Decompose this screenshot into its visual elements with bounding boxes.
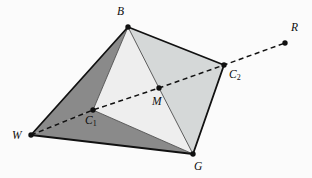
- vertex-dot-M: [156, 85, 161, 90]
- shaded-faces: [31, 27, 224, 154]
- geometry-canvas: [0, 0, 312, 178]
- vertex-dot-C1: [90, 107, 95, 112]
- vertex-label-subscript-C2: 2: [237, 73, 241, 82]
- vertex-dot-W: [28, 132, 33, 137]
- vertex-label-G: G: [194, 161, 202, 173]
- vertex-label-subscript-C1: 1: [93, 119, 97, 128]
- vertex-label-W: W: [12, 130, 22, 142]
- vertex-label-C1: C1: [85, 115, 97, 128]
- vertex-dot-G: [190, 151, 195, 156]
- vertex-label-C2: C2: [229, 69, 241, 82]
- vertex-dot-B: [125, 24, 130, 29]
- geometry-figure: WBGC2C1MR: [0, 0, 312, 178]
- vertex-label-M: M: [152, 96, 162, 108]
- vertex-dot-C2: [221, 62, 226, 67]
- vertex-label-R: R: [291, 22, 298, 34]
- vertex-label-B: B: [117, 6, 124, 18]
- vertex-dot-R: [282, 40, 287, 45]
